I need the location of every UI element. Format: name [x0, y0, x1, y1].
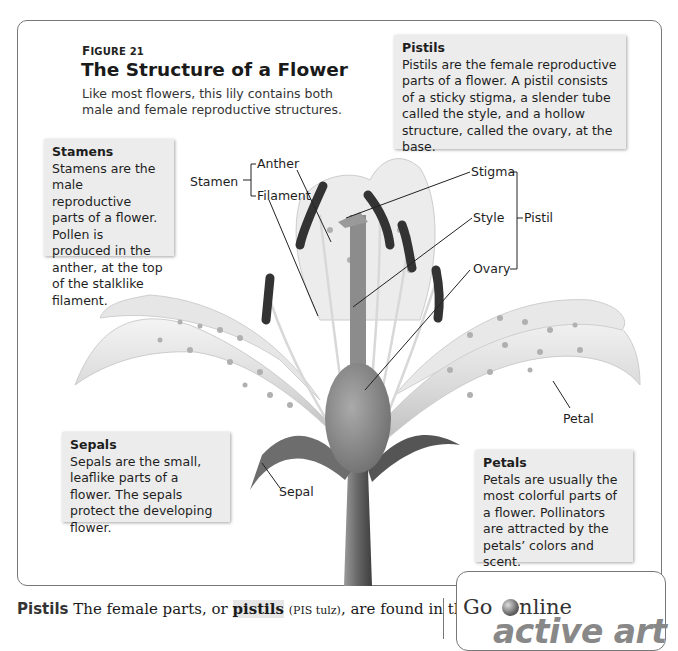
note-sepals-title: Sepals [70, 437, 222, 454]
note-stamens-title: Stamens [52, 144, 166, 161]
style [350, 215, 366, 370]
stem [344, 470, 372, 586]
label-petal: Petal [563, 411, 594, 426]
body-heading: Pistils [17, 600, 68, 618]
label-anther: Anther [257, 156, 299, 171]
note-pistils: Pistils Pistils are the female reproduct… [394, 35, 626, 149]
label-pistil: Pistil [524, 210, 553, 225]
pronunciation: (PIS tulz) [289, 604, 341, 617]
note-stamens-text: Stamens are the male reproductive parts … [52, 161, 163, 308]
ovary [325, 363, 391, 473]
note-sepals-text: Sepals are the small, leaflike parts of … [70, 454, 212, 535]
vocab-term: pistils [233, 600, 284, 618]
note-sepals: Sepals Sepals are the small, leaflike pa… [62, 432, 230, 522]
label-stamen: Stamen [190, 174, 238, 189]
label-style: Style [473, 210, 504, 225]
note-petals-text: Petals are usually the most colorful par… [483, 472, 617, 570]
label-sepal: Sepal [279, 484, 314, 499]
label-ovary: Ovary [473, 261, 510, 276]
note-pistils-text: Pistils are the female reproductive part… [402, 57, 617, 155]
note-stamens: Stamens Stamens are the male reproductiv… [44, 139, 174, 256]
label-stigma: Stigma [471, 164, 515, 179]
note-petals-title: Petals [483, 455, 625, 472]
body-paragraph: Pistils The female parts, or pistils (PI… [17, 600, 437, 618]
note-pistils-title: Pistils [402, 40, 618, 57]
column-rule [443, 598, 444, 639]
active-art-logo[interactable]: active art [493, 612, 667, 651]
label-filament: Filament [257, 188, 311, 203]
note-petals: Petals Petals are usually the most color… [475, 450, 633, 562]
